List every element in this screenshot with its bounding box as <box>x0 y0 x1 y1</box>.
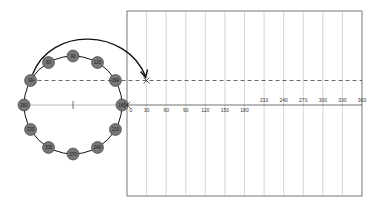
projection-overlay <box>31 39 362 108</box>
angle-node-330: 330 <box>25 124 37 136</box>
tick-label-30: 30 <box>144 107 150 113</box>
tick-label-300: 300 <box>319 97 328 103</box>
angle-node-label: 60 <box>46 60 52 65</box>
tick-label-90: 90 <box>183 107 189 113</box>
angle-node-60: 60 <box>43 57 55 69</box>
tick-label-150: 150 <box>221 107 230 113</box>
tick-label-120: 120 <box>201 107 210 113</box>
graph-axes: 0306090120150180210240270300330360 <box>127 97 366 113</box>
angle-node-240: 240 <box>92 141 104 153</box>
angle-node-label: 300 <box>45 145 53 150</box>
angle-node-label: 120 <box>94 60 102 65</box>
angle-node-300: 300 <box>43 141 55 153</box>
angle-node-270: 270 <box>67 148 79 160</box>
tick-label-180: 180 <box>240 107 249 113</box>
angle-node-90: 90 <box>67 50 79 62</box>
angle-node-360: 360 <box>18 99 30 111</box>
graph-grid <box>127 11 362 196</box>
angle-node-label: 360 <box>20 103 28 108</box>
tick-label-330: 330 <box>338 97 347 103</box>
angle-node-label: 330 <box>27 127 35 132</box>
tick-label-270: 270 <box>299 97 308 103</box>
tick-label-240: 240 <box>279 97 288 103</box>
angle-node-label: 90 <box>70 54 76 59</box>
unit-circle: 360306090120150180210240270300330 <box>18 50 128 160</box>
angle-node-label: 210 <box>112 127 120 132</box>
tick-label-360: 360 <box>358 97 367 103</box>
angle-node-180: 180 <box>116 99 128 111</box>
angle-node-label: 270 <box>69 152 77 157</box>
tick-label-60: 60 <box>163 107 169 113</box>
angle-node-label: 240 <box>94 145 102 150</box>
angle-node-120: 120 <box>92 57 104 69</box>
tick-label-210: 210 <box>260 97 269 103</box>
angle-node-210: 210 <box>109 124 121 136</box>
unit-circle-sine-diagram: 0306090120150180210240270300330360 36030… <box>0 0 380 205</box>
